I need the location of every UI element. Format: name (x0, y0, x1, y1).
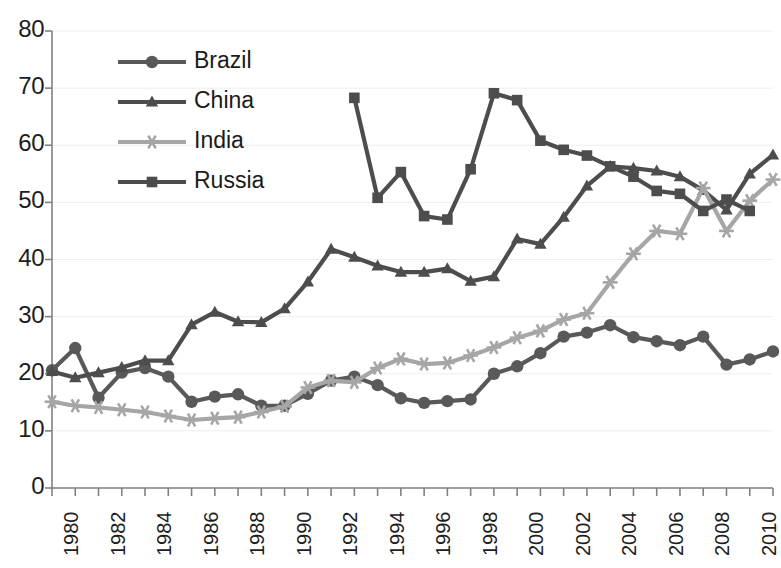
data-point-marker (372, 193, 383, 204)
data-point-marker (465, 164, 476, 175)
data-point-marker (605, 161, 616, 172)
y-axis-tick-label: 20 (0, 358, 44, 386)
x-axis-tick-label: 2004 (618, 512, 641, 557)
data-point-marker (674, 339, 686, 351)
data-point-marker (209, 390, 221, 402)
data-point-marker (419, 211, 430, 222)
data-point-marker (582, 150, 593, 161)
y-axis-tick-label: 80 (0, 15, 44, 43)
data-point-marker (441, 395, 453, 407)
y-axis-tick-label: 30 (0, 301, 44, 329)
series-india (45, 173, 781, 426)
data-point-marker (511, 360, 523, 372)
data-point-marker (349, 93, 360, 104)
data-point-marker (675, 189, 686, 200)
gridlines (52, 31, 773, 488)
legend-label-china: China (194, 87, 254, 114)
x-axis-tick-label: 2000 (525, 512, 548, 557)
data-point-marker (744, 353, 756, 365)
data-point-marker (535, 135, 546, 146)
data-point-marker (488, 368, 500, 380)
data-point-marker (627, 331, 639, 343)
legend-label-brazil: Brazil (194, 47, 252, 74)
data-point-marker (489, 88, 500, 99)
data-point-marker (209, 306, 221, 317)
x-axis-tick-label: 1996 (432, 512, 455, 557)
series-line (52, 180, 773, 420)
data-point-marker (162, 370, 174, 382)
x-axis-tick-label: 1986 (200, 512, 223, 557)
x-axis-tick-label: 2002 (572, 512, 595, 557)
y-axis-tick-label: 70 (0, 72, 44, 100)
data-point-marker (232, 388, 244, 400)
plot-area (0, 0, 781, 568)
data-point-marker (442, 214, 453, 225)
y-axis-tick-label: 50 (0, 186, 44, 214)
data-point-marker (325, 243, 337, 254)
x-axis-tick-label: 1990 (293, 512, 316, 557)
y-axis-tick-label: 10 (0, 415, 44, 443)
data-point-marker (720, 358, 732, 370)
series-brazil (46, 319, 779, 412)
data-point-marker (628, 171, 639, 182)
data-point-marker (557, 330, 569, 342)
legend-label-russia: Russia (194, 167, 264, 194)
x-axis-tick-label: 1992 (339, 512, 362, 557)
data-point-marker (651, 335, 663, 347)
data-point-marker (558, 145, 569, 156)
data-point-marker (581, 326, 593, 338)
data-point-marker (395, 392, 407, 404)
series-line (52, 325, 773, 406)
data-point-marker (604, 319, 616, 331)
data-point-marker (534, 347, 546, 359)
y-axis-tick-label: 0 (0, 472, 44, 500)
data-point-marker (69, 342, 81, 354)
x-axis-tick-label: 1982 (107, 512, 130, 557)
data-point-marker (651, 186, 662, 197)
data-point-marker (464, 393, 476, 405)
data-point-marker (697, 330, 709, 342)
x-axis-tick-label: 2010 (758, 512, 781, 557)
x-axis-tick-label: 1988 (246, 512, 269, 557)
x-axis-tick-label: 1994 (386, 512, 409, 557)
data-point-marker (185, 396, 197, 408)
data-point-marker (767, 345, 779, 357)
data-point-marker (396, 167, 407, 178)
y-axis-tick-label: 60 (0, 129, 44, 157)
x-axis-tick-label: 1980 (60, 512, 83, 557)
data-point-marker (371, 379, 383, 391)
data-point-marker (512, 95, 523, 106)
data-point-marker (721, 194, 732, 205)
series-line (354, 93, 749, 219)
data-point-marker (698, 206, 709, 217)
x-axis-tick-label: 1984 (153, 512, 176, 557)
data-point-marker (767, 149, 779, 160)
series-russia (349, 88, 755, 225)
data-point-marker (146, 56, 158, 68)
data-point-marker (744, 206, 755, 217)
x-axis-tick-label: 2008 (711, 512, 734, 557)
data-point-marker (147, 177, 158, 188)
legend-label-india: India (194, 127, 244, 154)
x-axis-tick-label: 2006 (665, 512, 688, 557)
y-axis-tick-label: 40 (0, 244, 44, 272)
line-chart: 8070605040302010019801982198419861988199… (0, 0, 781, 568)
legend (118, 56, 186, 188)
x-axis-tick-label: 1998 (479, 512, 502, 557)
data-point-marker (418, 397, 430, 409)
